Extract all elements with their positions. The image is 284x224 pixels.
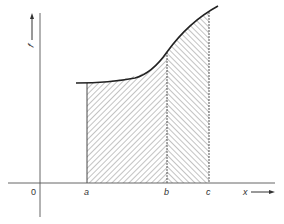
y-axis-arrow-icon (30, 13, 34, 40)
diagram-canvas: f x 0 a b c (0, 0, 284, 224)
origin-label: 0 (31, 187, 36, 197)
point-c-label: c (206, 187, 211, 197)
x-axis-arrow-icon (251, 190, 275, 194)
y-axis-label: f (26, 41, 37, 48)
point-b-label: b (164, 187, 169, 197)
point-a-label: a (84, 187, 89, 197)
x-axis-label: x (242, 187, 248, 197)
region-a-to-b (87, 52, 167, 183)
region-b-to-c (167, 12, 209, 183)
